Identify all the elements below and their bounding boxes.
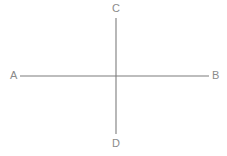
figure-canvas: A B C D [0,0,227,156]
point-label-b: B [212,70,219,81]
point-label-c: C [112,3,120,14]
point-label-a: A [10,70,17,81]
line-diagram [0,0,227,156]
point-label-d: D [112,138,120,149]
